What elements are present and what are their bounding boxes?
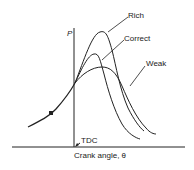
x-axis-label: Crank angle, θ — [74, 151, 127, 160]
y-axis-label: P — [67, 29, 73, 38]
correct-curve — [75, 54, 140, 139]
correct-leader — [102, 40, 124, 60]
rich-leader — [108, 17, 128, 32]
compression-curve — [28, 83, 75, 127]
weak-leader — [130, 66, 145, 86]
weak-label: Weak — [146, 59, 167, 68]
rich-label: Rich — [128, 11, 144, 20]
pressure-crank-angle-diagram: P Rich Correct Weak TDC Crank angle, θ — [0, 0, 194, 170]
tdc-label: TDC — [81, 136, 98, 145]
correct-label: Correct — [124, 34, 151, 43]
diagram-canvas: P Rich Correct Weak TDC Crank angle, θ — [0, 0, 194, 170]
ignition-point-marker — [49, 111, 53, 115]
weak-curve — [75, 67, 156, 134]
